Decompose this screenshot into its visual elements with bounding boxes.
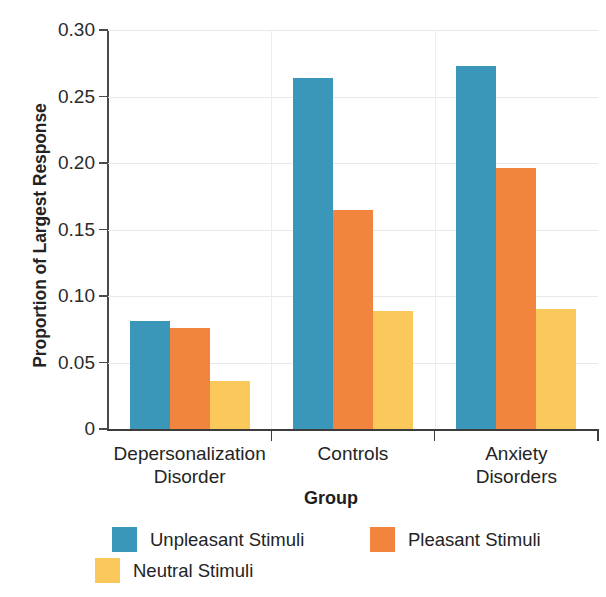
bar	[210, 381, 250, 429]
legend-swatch-neutral-stimuli	[95, 558, 120, 583]
legend-swatch-pleasant-stimuli	[370, 527, 395, 552]
y-axis-tick-label: 0.30	[58, 19, 95, 41]
x-axis-end-tick	[597, 430, 599, 441]
plot-area: 00.050.100.150.200.250.30	[108, 30, 598, 429]
x-axis-tick-label-line: Depersonalization	[108, 442, 271, 465]
bar	[456, 66, 496, 429]
bar	[496, 168, 536, 429]
gridline	[108, 163, 598, 164]
legend-row-2: Neutral Stimuli	[95, 555, 592, 586]
x-axis-tick-label-line: Controls	[271, 442, 434, 465]
y-axis-tick	[99, 295, 108, 297]
legend-label-unpleasant-stimuli: Unpleasant Stimuli	[150, 529, 304, 551]
gridline	[108, 30, 598, 31]
x-axis-tick-label-line: Disorders	[435, 465, 598, 488]
legend-entry-pleasant-stimuli: Pleasant Stimuli	[370, 527, 541, 552]
legend-row-1: Unpleasant Stimuli Pleasant Stimuli	[112, 524, 592, 555]
bar	[293, 78, 333, 429]
y-axis-tick-label: 0	[84, 418, 95, 440]
y-axis-tick-label: 0.20	[58, 152, 95, 174]
y-axis-title: Proportion of Largest Response	[30, 36, 51, 436]
y-axis-tick	[99, 428, 108, 430]
legend-label-neutral-stimuli: Neutral Stimuli	[133, 560, 253, 582]
x-axis-line	[107, 429, 599, 431]
y-axis-tick-label: 0.05	[58, 352, 95, 374]
x-axis-tick-label: AnxietyDisorders	[435, 442, 598, 488]
bar	[333, 210, 373, 429]
legend-label-pleasant-stimuli: Pleasant Stimuli	[408, 529, 541, 551]
legend: Unpleasant Stimuli Pleasant Stimuli Neut…	[112, 524, 592, 586]
legend-swatch-unpleasant-stimuli	[112, 527, 137, 552]
bar-chart-figure: Proportion of Largest Response 00.050.10…	[0, 0, 606, 597]
y-axis-tick-label: 0.10	[58, 285, 95, 307]
y-axis-tick	[99, 362, 108, 364]
x-axis-title: Group	[0, 488, 606, 509]
x-axis-tick	[271, 430, 273, 441]
x-axis-tick-label-line: Disorder	[108, 465, 271, 488]
y-axis-tick-label: 0.25	[58, 86, 95, 108]
x-axis-tick-label-line: Anxiety	[435, 442, 598, 465]
bar	[373, 311, 413, 429]
y-axis-tick	[99, 229, 108, 231]
y-axis-tick	[99, 29, 108, 31]
legend-entry-neutral-stimuli: Neutral Stimuli	[95, 558, 253, 583]
x-axis-tick-label: Controls	[271, 442, 434, 465]
x-axis-tick	[434, 430, 436, 441]
x-axis-tick-label: DepersonalizationDisorder	[108, 442, 271, 488]
panel-separator	[435, 30, 436, 429]
y-axis-tick	[99, 162, 108, 164]
legend-entry-unpleasant-stimuli: Unpleasant Stimuli	[112, 527, 370, 552]
y-axis-tick	[99, 96, 108, 98]
bar	[170, 328, 210, 429]
y-axis-tick-label: 0.15	[58, 219, 95, 241]
bar	[130, 321, 170, 429]
panel-separator	[271, 30, 272, 429]
gridline	[108, 97, 598, 98]
bar	[536, 309, 576, 429]
